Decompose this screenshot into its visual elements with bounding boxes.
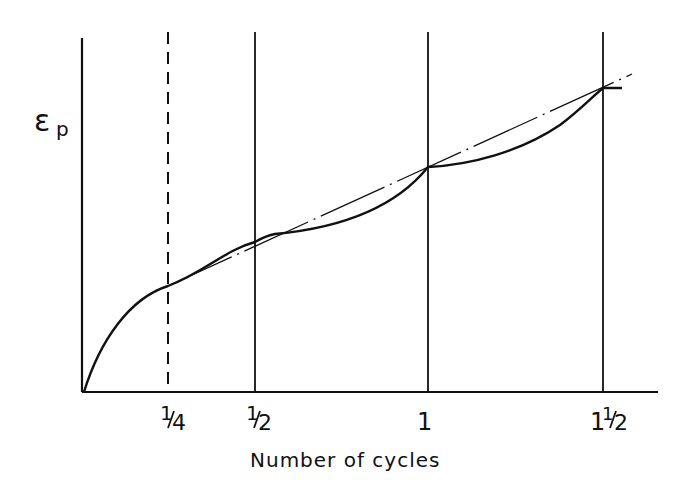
tick-label-one: 1: [417, 408, 432, 436]
trend-line: [168, 74, 632, 286]
svg-text:1: 1: [417, 408, 432, 436]
x-axis-label: Number of cycles: [250, 448, 440, 472]
svg-text:2: 2: [614, 410, 628, 435]
tick-label-one-and-half: 1 1 2: [590, 403, 628, 436]
y-axis-label: ε: [34, 103, 50, 138]
strain-vs-cycles-chart: ε p 1 4 1 2 1 1 1 2 Number of cycles: [0, 0, 693, 497]
y-axis-label-subscript: p: [56, 117, 69, 141]
tick-label-quarter: 1 4: [160, 401, 186, 435]
svg-text:2: 2: [258, 410, 272, 435]
tick-label-half: 1 2: [246, 401, 272, 435]
strain-curve: [84, 88, 622, 392]
svg-text:4: 4: [172, 410, 186, 435]
